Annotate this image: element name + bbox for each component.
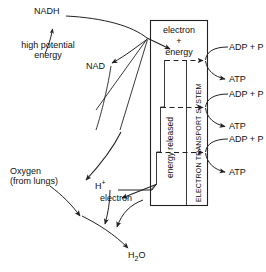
box-top-energy: energy	[152, 47, 206, 57]
proton-charge: +	[102, 179, 106, 186]
label-electron: electron	[100, 193, 132, 203]
label-water: H2O	[128, 250, 145, 264]
label-nadh: NADH	[34, 6, 60, 16]
atp-curve-3	[206, 153, 226, 172]
atp-curve-1	[206, 61, 226, 79]
oxygen-line2: (from lungs)	[10, 176, 58, 186]
label-proton: H+	[95, 178, 106, 191]
electron-curve	[117, 200, 143, 227]
energy-staircase	[157, 60, 165, 184]
label-oxygen: Oxygen (from lungs)	[10, 166, 58, 186]
nad-down-curve	[96, 66, 111, 130]
junction-line-b	[120, 40, 148, 131]
electron-transport-diagram: NADH high potential energy NAD Oxygen (f…	[0, 0, 266, 272]
water-o: O	[138, 250, 145, 260]
electron-box-bottom-line	[151, 184, 157, 190]
box-top-electron: electron	[152, 25, 206, 35]
adp-curve-1	[206, 47, 229, 60]
nadh-to-junction-curve	[66, 16, 147, 38]
label-nad: NAD	[86, 61, 105, 71]
atp-curve-2	[206, 108, 226, 127]
adp-label-2: ADP + P	[229, 89, 264, 99]
high-potential-energy-line1: high potential	[6, 40, 90, 50]
merge-to-water	[82, 216, 128, 248]
adp-label-3: ADP + P	[229, 134, 264, 144]
high-potential-energy-line2: energy	[6, 50, 90, 60]
adp-curve-2	[206, 94, 229, 107]
atp-label-1: ATP	[229, 74, 246, 84]
to-proton-arrow	[86, 132, 121, 180]
atp-label-2: ATP	[229, 121, 246, 131]
vertical-label-electron-transport-system: ELECTRON TRANSPORT SYSTEM	[195, 83, 202, 202]
oxygen-curve	[50, 186, 80, 216]
box-top-plus: +	[152, 36, 206, 46]
oxygen-line1: Oxygen	[10, 166, 58, 176]
adp-label-1: ADP + P	[229, 42, 264, 52]
vertical-label-energy-released: energy released	[165, 117, 175, 178]
junction-line-a	[96, 39, 147, 110]
atp-label-3: ATP	[229, 167, 246, 177]
label-high-potential-energy: high potential energy	[6, 40, 90, 60]
adp-curve-3	[206, 139, 229, 152]
